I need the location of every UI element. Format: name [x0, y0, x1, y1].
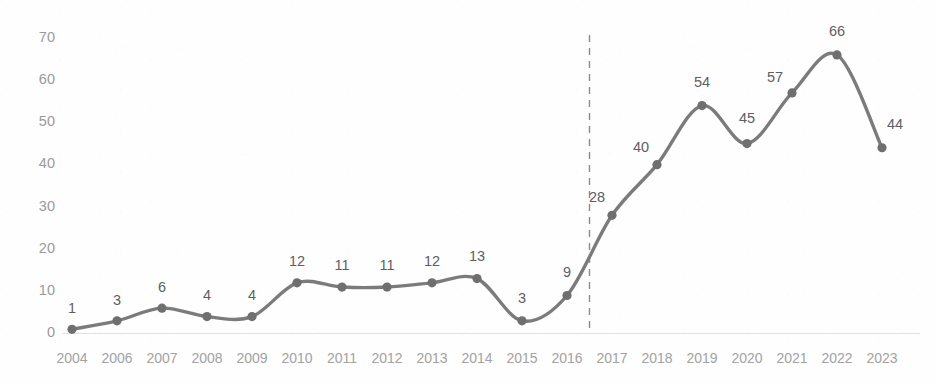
y-axis-tick-label: 30 — [39, 198, 55, 214]
series-line-path — [72, 53, 882, 329]
y-axis-tick-label: 50 — [39, 113, 55, 129]
data-point-marker — [697, 101, 706, 110]
data-value-label: 12 — [424, 253, 440, 269]
data-point-marker — [742, 139, 751, 148]
y-axis-tick-label: 70 — [39, 29, 55, 45]
data-point-marker — [832, 50, 841, 59]
data-point-marker — [562, 291, 571, 300]
data-value-label: 1 — [68, 300, 76, 316]
data-point-marker — [157, 304, 166, 313]
x-axis-tick-label: 2013 — [416, 350, 447, 366]
x-axis-tick-label: 2023 — [866, 350, 897, 366]
data-point-marker — [247, 312, 256, 321]
data-value-label: 11 — [334, 257, 349, 273]
chart-container: 010203040506070 200420062007200820092010… — [0, 0, 935, 383]
data-point-marker — [652, 160, 661, 169]
data-value-label: 13 — [469, 248, 485, 264]
x-axis-tick-label: 2010 — [281, 350, 312, 366]
y-axis-tick-label: 20 — [39, 240, 55, 256]
data-value-label: 9 — [563, 264, 571, 280]
data-point-marker — [67, 325, 76, 334]
data-point-marker — [112, 316, 121, 325]
x-axis-tick-label: 2015 — [506, 350, 537, 366]
x-axis-tick-label: 2016 — [551, 350, 582, 366]
x-axis-tick-label: 2018 — [641, 350, 672, 366]
y-axis-tick-label: 60 — [39, 71, 55, 87]
data-value-labels: 1364412111112133928405445576644 — [68, 23, 903, 316]
data-point-marker — [877, 143, 886, 152]
x-axis-tick-labels: 2004200620072008200920102011201220132014… — [56, 350, 897, 366]
y-axis-tick-label: 40 — [39, 155, 55, 171]
data-value-label: 57 — [767, 69, 783, 85]
x-axis-tick-label: 2020 — [731, 350, 762, 366]
data-value-label: 45 — [739, 110, 755, 126]
data-value-label: 6 — [158, 279, 166, 295]
y-axis-tick-label: 0 — [47, 324, 55, 340]
data-point-marker — [607, 211, 616, 220]
x-axis-tick-label: 2008 — [191, 350, 222, 366]
data-point-marker — [787, 88, 796, 97]
data-value-label: 40 — [633, 139, 649, 155]
x-axis-tick-label: 2006 — [101, 350, 132, 366]
y-axis-tick-labels: 010203040506070 — [39, 29, 55, 341]
data-point-marker — [472, 274, 481, 283]
data-value-label: 28 — [589, 189, 605, 205]
data-value-label: 4 — [203, 287, 211, 303]
line-chart-plot: 010203040506070 200420062007200820092010… — [0, 0, 935, 383]
data-value-label: 66 — [829, 23, 845, 39]
data-value-label: 3 — [113, 292, 121, 308]
data-value-label: 11 — [379, 257, 394, 273]
x-axis-tick-label: 2021 — [776, 350, 807, 366]
data-value-label: 12 — [289, 253, 305, 269]
data-point-marker — [337, 282, 346, 291]
data-point-marker — [382, 282, 391, 291]
x-axis-tick-label: 2019 — [686, 350, 717, 366]
x-axis-tick-label: 2011 — [327, 350, 357, 366]
data-value-label: 3 — [518, 290, 526, 306]
x-axis-tick-label: 2012 — [371, 350, 402, 366]
data-value-label: 44 — [887, 116, 903, 132]
x-axis-tick-label: 2009 — [236, 350, 267, 366]
x-axis-tick-label: 2017 — [596, 350, 627, 366]
data-value-label: 54 — [694, 74, 710, 90]
x-axis-tick-label: 2004 — [56, 350, 87, 366]
data-value-label: 4 — [248, 287, 256, 303]
data-point-marker — [517, 316, 526, 325]
x-axis-tick-label: 2014 — [461, 350, 492, 366]
x-axis-tick-label: 2022 — [821, 350, 852, 366]
data-point-markers — [67, 50, 886, 334]
y-axis-tick-label: 10 — [39, 282, 55, 298]
data-point-marker — [202, 312, 211, 321]
data-point-marker — [292, 278, 301, 287]
data-point-marker — [427, 278, 436, 287]
x-axis-tick-label: 2007 — [146, 350, 177, 366]
